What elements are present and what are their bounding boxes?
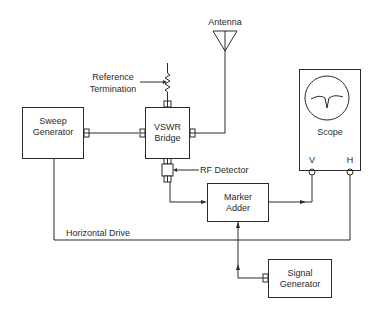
- vswr-bridge-block: VSWR Bridge: [145, 107, 190, 159]
- signal-generator-label-2: Generator: [280, 279, 321, 290]
- adder-to-scope-v-wire: [269, 175, 312, 202]
- marker-adder-label-1: Marker: [224, 192, 252, 203]
- vswr-bridge-label-2: Bridge: [154, 133, 180, 144]
- marker-adder-block: Marker Adder: [207, 183, 269, 222]
- signal-generator-label-1: Signal: [287, 268, 312, 279]
- horizontal-drive-label: Horizontal Drive: [66, 228, 130, 239]
- sweep-generator-label-1: Sweep: [39, 116, 67, 127]
- rf-detector-icon: [162, 164, 173, 176]
- vswr-bridge-label-1: VSWR: [154, 122, 181, 133]
- signalgen-to-adder-wire: [238, 222, 263, 278]
- bridge-to-antenna-wire: [195, 50, 225, 133]
- signal-generator-block: Signal Generator: [268, 259, 332, 298]
- detector-to-adder-wire: [170, 182, 202, 202]
- sweep-generator-block: Sweep Generator: [22, 107, 84, 159]
- sweep-generator-label-2: Generator: [33, 127, 74, 138]
- marker-adder-label-2: Adder: [226, 203, 250, 214]
- rf-detector-label: RF Detector: [200, 165, 249, 176]
- scope-h-label: H: [345, 155, 355, 166]
- scope-label: Scope: [299, 127, 361, 138]
- antenna-label: Antenna: [195, 17, 255, 28]
- scope-v-label: V: [307, 155, 317, 166]
- reference-termination-label-2: Termination: [88, 84, 138, 95]
- reference-termination-label-1: Reference: [88, 72, 138, 83]
